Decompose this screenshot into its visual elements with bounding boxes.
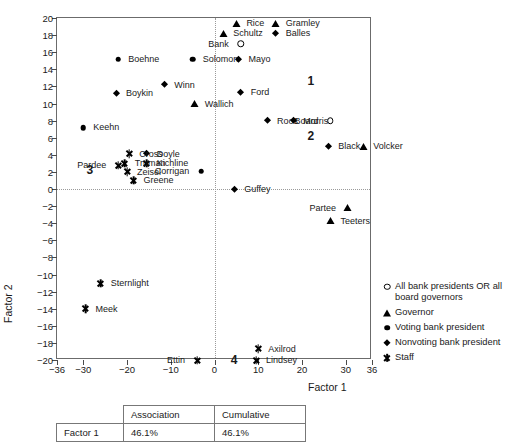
data-point-label: Partee: [309, 203, 336, 213]
y-axis-tick-label: −4: [42, 218, 53, 229]
open-circle-marker-icon: [384, 283, 391, 290]
data-point-label: Schultz: [233, 28, 263, 38]
data-point[interactable]: [264, 117, 271, 124]
legend-item: All bank presidents OR all board governo…: [381, 281, 519, 303]
open-circle-marker-icon: [238, 40, 245, 47]
data-point[interactable]: [97, 280, 104, 287]
data-point-label: Boykin: [126, 88, 153, 98]
data-point[interactable]: [113, 90, 120, 97]
y-axis-tick-label: −6: [42, 235, 53, 246]
triangle-marker-icon: [344, 204, 352, 211]
triangle-marker-icon: [191, 100, 199, 107]
x-axis-tick-label: 20: [297, 364, 308, 375]
data-point-label: Greene: [144, 175, 174, 185]
chart-legend: All bank presidents OR all board governo…: [381, 281, 519, 367]
x-axis-label: Factor 1: [308, 381, 347, 393]
data-point[interactable]: [253, 357, 260, 364]
y-axis-tick-label: −18: [37, 337, 53, 348]
x-axis-tick-label: 30: [340, 364, 351, 375]
data-point-label: Teeters: [340, 216, 370, 226]
data-point[interactable]: [325, 143, 332, 150]
filled-circle-marker-icon: [384, 325, 390, 331]
data-point[interactable]: [237, 40, 244, 47]
star-bar: [85, 304, 87, 312]
data-point[interactable]: [191, 100, 198, 107]
data-point[interactable]: [80, 124, 87, 131]
cluster-annotation-2: 2: [307, 129, 314, 143]
table-header-row: Association Cumulative: [57, 406, 306, 424]
table-cell-association: 46.1%: [124, 424, 215, 442]
x-axis-tick-label: −20: [119, 364, 135, 375]
table-cell-factor-name: Factor 1: [57, 424, 124, 442]
data-point-label: Gramley: [286, 18, 320, 28]
y-axis-tick-label: 12: [42, 81, 53, 92]
data-point[interactable]: [255, 345, 262, 352]
data-point[interactable]: [220, 30, 227, 37]
data-point-label: Meek: [95, 304, 117, 314]
legend-item: Nonvoting bank president: [381, 337, 519, 348]
triangle-marker-icon: [219, 30, 227, 37]
data-point[interactable]: [82, 305, 89, 312]
star-bar: [128, 150, 130, 158]
legend-item: Voting bank president: [381, 322, 519, 333]
data-point[interactable]: [231, 186, 238, 193]
data-point[interactable]: [115, 56, 122, 63]
data-point[interactable]: [272, 20, 279, 27]
data-point-label: Bank: [208, 39, 229, 49]
data-point-label: Sternlight: [111, 278, 149, 288]
data-point[interactable]: [360, 143, 367, 150]
data-point-label: Lindsey: [266, 355, 297, 365]
data-point-label: Balles: [286, 28, 311, 38]
scatter-plot-frame: BankBoardRiceGramleySchultzWallichVolcke…: [56, 17, 371, 359]
data-point[interactable]: [115, 162, 122, 169]
y-axis-tick-label: 20: [42, 13, 53, 24]
data-point[interactable]: [237, 89, 244, 96]
data-point-label: Mayo: [249, 54, 271, 64]
data-point[interactable]: [344, 204, 351, 211]
star-marker-icon: [254, 345, 262, 353]
data-point[interactable]: [161, 81, 168, 88]
diamond-marker-icon: [289, 117, 297, 125]
star-marker-icon: [97, 279, 105, 287]
legend-label: Nonvoting bank president: [393, 337, 500, 348]
data-point[interactable]: [327, 217, 334, 224]
star-marker-icon: [252, 356, 260, 364]
cluster-annotation-4: 4: [231, 353, 238, 367]
data-point[interactable]: [121, 160, 128, 167]
filled-circle-marker-icon: [199, 168, 205, 174]
data-point[interactable]: [130, 177, 137, 184]
data-point[interactable]: [124, 168, 131, 175]
data-point[interactable]: [189, 56, 196, 63]
data-point-label: Boehne: [128, 54, 159, 64]
data-point[interactable]: [235, 56, 242, 63]
y-axis-tick-label: −12: [37, 286, 53, 297]
legend-marker: [381, 337, 393, 348]
triangle-marker-icon: [359, 143, 367, 150]
data-point-label: Keehn: [93, 122, 119, 132]
star-bar: [100, 279, 102, 287]
data-point[interactable]: [198, 168, 205, 175]
data-point[interactable]: [194, 357, 201, 364]
data-point[interactable]: [272, 30, 279, 37]
legend-item: Governor: [381, 307, 519, 318]
triangle-marker-icon: [326, 217, 334, 224]
filled-circle-marker-icon: [80, 125, 86, 131]
filled-circle-marker-icon: [190, 56, 196, 62]
star-marker-icon: [130, 176, 138, 184]
y-axis-tick-label: 18: [42, 30, 53, 41]
legend-marker: [381, 352, 393, 363]
y-axis-tick-label: 10: [42, 98, 53, 109]
diamond-marker-icon: [272, 30, 280, 38]
cluster-annotation-1: 1: [307, 74, 314, 88]
diamond-marker-icon: [230, 185, 238, 193]
star-marker-icon: [81, 305, 89, 313]
data-point[interactable]: [126, 150, 133, 157]
diamond-marker-icon: [160, 81, 168, 89]
triangle-marker-icon: [272, 20, 280, 27]
star-marker-icon: [383, 354, 391, 362]
data-point[interactable]: [290, 117, 297, 124]
cluster-annotation-3: 3: [86, 163, 93, 177]
data-point-label: Rice: [246, 18, 264, 28]
x-axis-tick-label: −30: [75, 364, 91, 375]
data-point[interactable]: [233, 20, 240, 27]
